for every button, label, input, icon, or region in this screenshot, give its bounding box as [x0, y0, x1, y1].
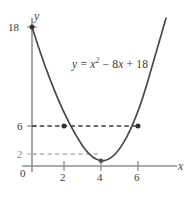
y-tick-label-6: 6	[17, 121, 23, 132]
x-tick-label-2: 2	[60, 172, 66, 183]
y-axis-label: y	[34, 10, 39, 22]
equation-middle: − 8	[99, 58, 118, 70]
parabola-curve	[32, 18, 166, 161]
plot-canvas	[0, 0, 196, 197]
x-tick-label-4: 4	[97, 172, 103, 183]
point-vertex	[99, 159, 104, 164]
equation-equals: =	[77, 58, 90, 70]
point-y-intercept	[30, 25, 35, 30]
x-tick-label-6: 6	[134, 172, 140, 183]
equation-tail: + 18	[124, 58, 149, 70]
y-tick-label-18: 18	[8, 22, 19, 33]
parabola-figure: y x 0 18 6 2 2 4 6 y = x2 − 8x + 18	[0, 0, 196, 197]
y-tick-label-2: 2	[17, 149, 23, 160]
x-axis-label: x	[178, 160, 183, 172]
origin-label: 0	[20, 168, 26, 179]
point-right-intersection	[136, 124, 141, 129]
point-left-intersection	[62, 124, 67, 129]
equation-annotation: y = x2 − 8x + 18	[72, 58, 148, 70]
